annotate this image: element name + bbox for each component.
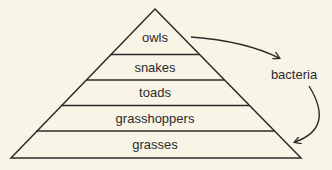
- food-pyramid-diagram: owls snakes toads grasshoppers grasses b…: [0, 0, 332, 170]
- diagram-svg: owls snakes toads grasshoppers grasses b…: [0, 0, 332, 170]
- level-label-toads: toads: [139, 85, 171, 100]
- arrow-owls-to-bacteria: [191, 37, 279, 58]
- level-label-grasses: grasses: [132, 137, 178, 152]
- level-label-owls: owls: [142, 30, 169, 45]
- level-label-snakes: snakes: [134, 60, 176, 75]
- decomposer-label-bacteria: bacteria: [271, 67, 318, 82]
- arrow-bacteria-to-grasses: [295, 86, 319, 142]
- level-label-grasshoppers: grasshoppers: [116, 111, 195, 126]
